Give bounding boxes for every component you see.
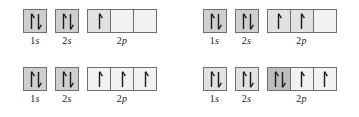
orbital-box-row (55, 67, 79, 91)
subshell-1s: 1s (203, 67, 227, 104)
subshell-label-2p: 2p (296, 93, 306, 104)
subshell-letter: p (122, 35, 127, 46)
subshell-2s: 2s (235, 67, 259, 104)
orbital-box[interactable] (290, 67, 314, 91)
subshell-label-2s: 2s (242, 93, 251, 104)
up-arrow-icon (298, 13, 305, 30)
orbital-box-row (235, 9, 259, 33)
subshell-label-2s: 2s (62, 35, 71, 46)
up-arrow-icon (142, 71, 149, 88)
orbital-box[interactable] (133, 67, 157, 91)
up-arrow-icon (96, 71, 103, 88)
down-arrow-icon (247, 71, 254, 88)
orbital-box[interactable] (235, 67, 259, 91)
up-arrow-icon (240, 71, 247, 88)
orbital-box[interactable] (313, 67, 337, 91)
orbital-box-row (235, 67, 259, 91)
subshell-2p: 2p (87, 9, 157, 46)
diagram-top-right: 1s2s2p (180, 0, 359, 58)
orbital-box[interactable] (23, 67, 47, 91)
subshell-label-1s: 1s (210, 93, 219, 104)
orbital-box-row (203, 67, 227, 91)
subshell-1s: 1s (23, 9, 47, 46)
orbital-box[interactable] (133, 9, 157, 33)
up-arrow-icon (60, 13, 67, 30)
subshell-letter: s (36, 93, 40, 104)
electron-arrows (208, 10, 222, 32)
orbital-box[interactable] (313, 9, 337, 33)
up-arrow-icon (28, 13, 35, 30)
electron-arrows (321, 68, 328, 90)
down-arrow-icon (67, 71, 74, 88)
electron-arrows (119, 68, 126, 90)
subshell-label-2s: 2s (242, 35, 251, 46)
up-arrow-icon (321, 71, 328, 88)
electron-arrows (60, 10, 74, 32)
down-arrow-icon (67, 13, 74, 30)
subshell-letter: p (302, 35, 307, 46)
orbital-box[interactable] (55, 9, 79, 33)
subshell-letter: s (215, 93, 219, 104)
subshell-label-2p: 2p (296, 35, 306, 46)
subshell-2s: 2s (55, 9, 79, 46)
electron-arrows (298, 10, 305, 32)
down-arrow-icon (279, 71, 286, 88)
diagram-bottom-right: 1s2s2p (180, 58, 359, 117)
orbital-box[interactable] (203, 67, 227, 91)
orbital-box-row (23, 67, 47, 91)
up-arrow-icon (96, 13, 103, 30)
subshell-letter: s (36, 35, 40, 46)
up-arrow-icon (119, 71, 126, 88)
orbital-box-row (87, 67, 157, 91)
up-arrow-icon (208, 13, 215, 30)
subshell-2p: 2p (267, 67, 337, 104)
subshell-label-1s: 1s (210, 35, 219, 46)
electron-arrows (96, 68, 103, 90)
subshell-2s: 2s (235, 9, 259, 46)
electron-arrows (240, 68, 254, 90)
subshell-1s: 1s (203, 9, 227, 46)
orbital-box[interactable] (55, 67, 79, 91)
orbital-box-row (87, 9, 157, 33)
subshell-label-1s: 1s (30, 93, 39, 104)
subshell-1s: 1s (23, 67, 47, 104)
orbital-box[interactable] (23, 9, 47, 33)
orbital-box[interactable] (290, 9, 314, 33)
diagram-top-left: 1s2s2p (0, 0, 180, 58)
diagram-bottom-left: 1s2s2p (0, 58, 180, 117)
up-arrow-icon (298, 71, 305, 88)
orbital-box[interactable] (87, 9, 111, 33)
orbital-box[interactable] (110, 9, 134, 33)
orbital-box[interactable] (267, 9, 291, 33)
orbital-box[interactable] (235, 9, 259, 33)
up-arrow-icon (240, 13, 247, 30)
electron-arrows (60, 68, 74, 90)
electron-arrows (28, 68, 42, 90)
electron-arrows (240, 10, 254, 32)
orbital-box[interactable] (110, 67, 134, 91)
down-arrow-icon (215, 71, 222, 88)
electron-arrows (96, 10, 103, 32)
subshell-letter: s (68, 35, 72, 46)
subshell-2p: 2p (267, 9, 337, 46)
orbital-box-row (23, 9, 47, 33)
subshell-label-2p: 2p (117, 35, 127, 46)
subshell-label-1s: 1s (30, 35, 39, 46)
subshell-letter: s (247, 93, 251, 104)
up-arrow-icon (272, 71, 279, 88)
orbital-box-row (267, 9, 337, 33)
down-arrow-icon (35, 71, 42, 88)
orbital-box[interactable] (87, 67, 111, 91)
subshell-2p: 2p (87, 67, 157, 104)
down-arrow-icon (35, 13, 42, 30)
electron-arrows (272, 68, 286, 90)
orbital-box[interactable] (203, 9, 227, 33)
subshell-label-2s: 2s (62, 93, 71, 104)
electron-arrows (142, 68, 149, 90)
electron-arrows (275, 10, 282, 32)
orbital-box[interactable] (267, 67, 291, 91)
subshell-letter: s (247, 35, 251, 46)
subshell-2s: 2s (55, 67, 79, 104)
up-arrow-icon (208, 71, 215, 88)
subshell-letter: p (122, 93, 127, 104)
